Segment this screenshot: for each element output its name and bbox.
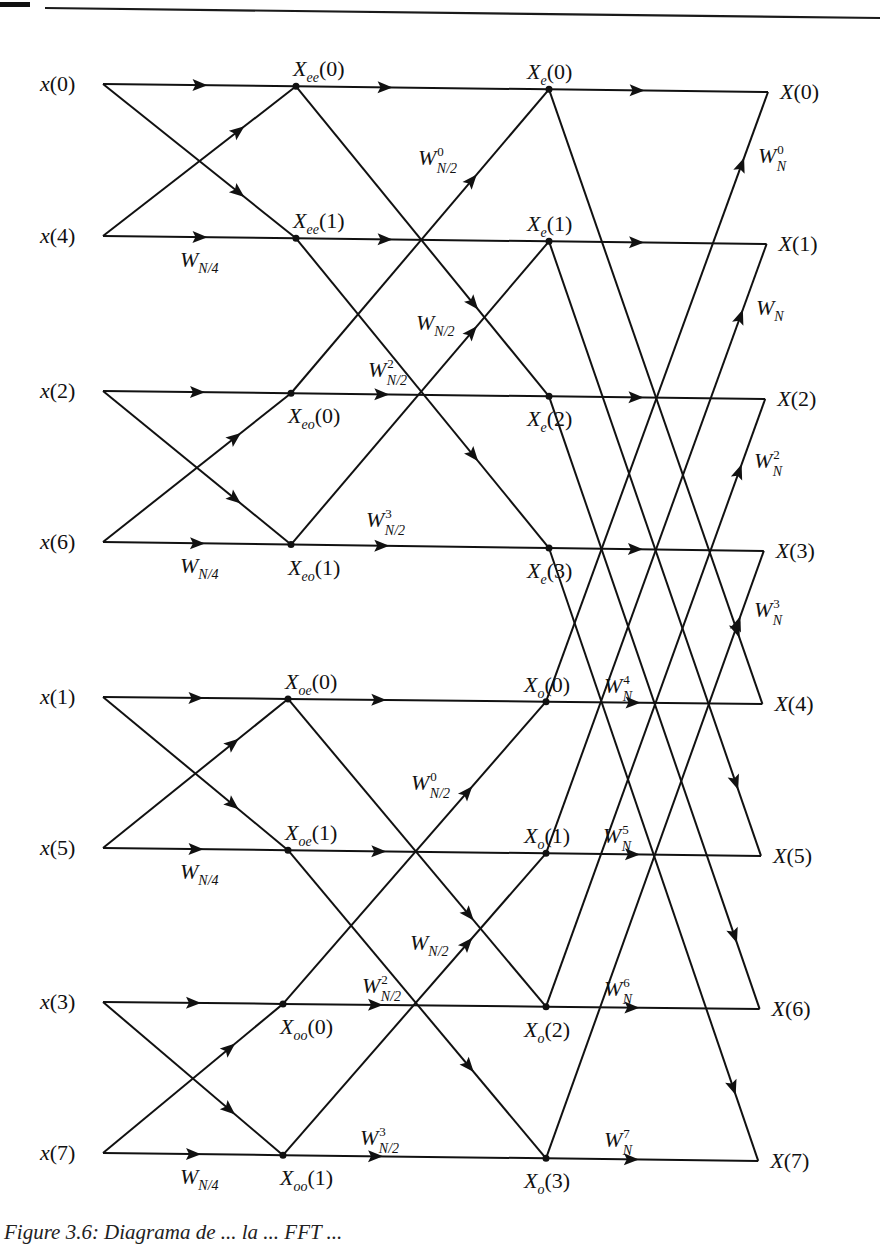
edge-stage3-straight <box>546 702 762 704</box>
stage1-node-label-oo1: Xoo(1) <box>279 1165 333 1194</box>
twiddle-label-stage3: W6N <box>604 975 633 1007</box>
butterfly-node-dot <box>546 393 553 400</box>
butterfly-node-dot <box>546 545 553 552</box>
twiddle-label-stage3: W2N <box>754 447 783 479</box>
output-label-X4: X(4) <box>773 691 813 716</box>
arrow-icon <box>725 1079 741 1097</box>
edge-stage1-cross <box>103 86 296 236</box>
twiddle-label-stage3: WN <box>756 295 784 324</box>
twiddle-label-stage1: WN/4 <box>180 1164 219 1193</box>
output-label-X2: X(2) <box>776 386 816 411</box>
stage1-node-label-eo0: Xeo(0) <box>287 403 340 432</box>
stage2-node-label-o1: Xo(1) <box>523 823 570 852</box>
twiddle-label-stage2: WN/2 <box>416 310 455 339</box>
arrow-icon <box>726 927 742 945</box>
output-label-X3: X(3) <box>775 538 815 563</box>
edge-stage3-straight <box>549 241 767 244</box>
edge-stage3-straight <box>546 1158 758 1161</box>
header-rule <box>45 8 880 18</box>
twiddle-label-stage2: W2N/2 <box>368 356 407 388</box>
stage1-node-label-ee1: Xee(1) <box>292 208 345 237</box>
stage1-node-label-ee0: Xee(0) <box>292 56 345 85</box>
signal-labels: x(0)x(4)x(2)x(6)x(1)x(5)x(3)x(7)X(0)X(1)… <box>39 56 819 1197</box>
edge-stage1-cross <box>103 393 291 542</box>
output-label-X7: X(7) <box>769 1148 809 1173</box>
edge-stage3-straight <box>546 853 761 856</box>
twiddle-label-stage1: WN/4 <box>180 247 219 276</box>
output-label-X6: X(6) <box>771 996 811 1021</box>
arrow-icon <box>731 462 747 480</box>
stage1-node-label-oe0: Xoe(0) <box>284 669 337 698</box>
edge-stage2-straight <box>291 545 549 548</box>
twiddle-label-stage1: WN/4 <box>180 553 219 582</box>
input-label-x1: x(1) <box>39 684 75 709</box>
butterfly-node-dot <box>543 1003 550 1010</box>
butterfly-node-dot <box>288 390 295 397</box>
twiddle-label-stage3: W5N <box>603 822 632 854</box>
edge-stage1-cross <box>103 699 288 848</box>
butterfly-node-dot <box>285 847 292 854</box>
twiddle-label-stage3: W0N <box>758 142 787 174</box>
edge-stage3-straight <box>549 89 768 92</box>
input-label-x0: x(0) <box>39 71 75 96</box>
edge-stage2-straight <box>283 1155 546 1158</box>
stage2-node-label-o2: Xo(2) <box>523 1017 570 1046</box>
twiddle-label-stage3: W4N <box>604 672 633 704</box>
arrow-icon <box>732 308 748 326</box>
twiddle-label-stage3: W3N <box>754 596 783 628</box>
output-label-X1: X(1) <box>778 231 818 256</box>
arrow-icon <box>728 774 744 792</box>
arrow-icon <box>733 156 749 174</box>
twiddle-label-stage2: W3N/2 <box>360 1124 399 1156</box>
twiddle-label-stage2: W3N/2 <box>366 506 405 538</box>
butterfly-node-dot <box>288 541 295 548</box>
butterfly-node-dot <box>543 1155 550 1162</box>
butterfly-node-dot <box>293 235 300 242</box>
twiddle-label-stage3: W7N <box>604 1126 633 1158</box>
stage2-node-label-e0: Xe(0) <box>526 59 572 88</box>
input-label-x2: x(2) <box>39 378 75 403</box>
stage2-node-label-e1: Xe(1) <box>526 211 572 240</box>
input-label-x4: x(4) <box>39 223 75 248</box>
twiddle-label-stage2: W0N/2 <box>418 144 457 176</box>
signal-flow-edges <box>103 84 768 1161</box>
stage2-node-label-o0: Xo(0) <box>523 672 570 701</box>
edge-stage3-straight <box>546 1007 760 1009</box>
butterfly-node-dot <box>280 1152 287 1159</box>
twiddle-label-stage1: WN/4 <box>180 859 219 888</box>
edge-stage2-straight <box>296 86 549 89</box>
edge-stage2-straight <box>288 699 546 702</box>
arrow-icon <box>229 122 248 141</box>
output-label-X0: X(0) <box>779 79 819 104</box>
stage1-node-label-oo0: Xoo(0) <box>279 1014 333 1043</box>
twiddle-label-stage2: WN/2 <box>410 930 449 959</box>
stage2-node-label-o3: Xo(3) <box>523 1168 570 1197</box>
stage2-node-label-e3: Xe(3) <box>526 558 572 587</box>
input-label-x5: x(5) <box>39 835 75 860</box>
stage2-node-label-e2: Xe(2) <box>526 406 572 435</box>
output-label-X5: X(5) <box>772 843 812 868</box>
figure-caption: Figure 3.6: Diagrama de ... la ... FFT .… <box>4 1220 342 1245</box>
butterfly-node-dot <box>293 83 300 90</box>
input-label-x3: x(3) <box>39 989 75 1014</box>
butterfly-node-dot <box>280 1000 287 1007</box>
twiddle-label-stage2: W0N/2 <box>411 769 450 801</box>
stage1-node-label-eo1: Xeo(1) <box>287 555 340 584</box>
input-label-x6: x(6) <box>39 529 75 554</box>
input-label-x7: x(7) <box>39 1140 75 1165</box>
stage1-node-label-oe1: Xoe(1) <box>284 820 337 849</box>
butterfly-node-dot <box>285 695 292 702</box>
